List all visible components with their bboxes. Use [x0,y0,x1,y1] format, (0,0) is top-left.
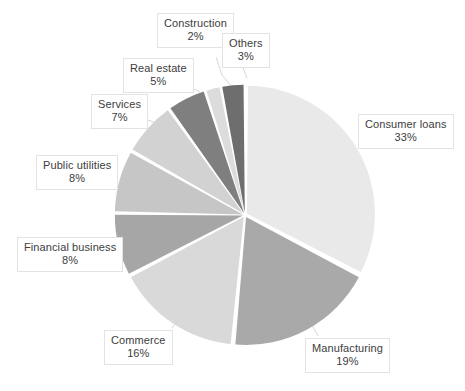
pie-label-others: Others 3% [222,33,270,68]
pie-label-consumer-loans-name: Consumer loans [365,118,447,131]
pie-label-public-utilities-value: 8% [43,172,111,185]
pie-label-financial-business-name: Financial business [24,241,116,254]
pie-label-consumer-loans-value: 33% [365,131,447,144]
pie-label-commerce-value: 16% [111,347,166,360]
pie-label-real-estate: Real estate 5% [123,58,194,93]
pie-label-manufacturing-value: 19% [312,355,383,368]
pie-label-real-estate-name: Real estate [130,62,187,75]
pie-label-services: Services 7% [91,94,148,129]
pie-label-commerce: Commerce 16% [104,330,173,365]
pie-label-construction-value: 2% [164,30,227,43]
pie-label-others-name: Others [229,37,263,50]
leader-line-manufacturing [312,325,318,336]
pie-label-real-estate-value: 5% [130,75,187,88]
pie-label-services-value: 7% [98,111,141,124]
pie-label-manufacturing-name: Manufacturing [312,342,383,355]
pie-label-manufacturing: Manufacturing 19% [305,338,390,373]
pie-label-commerce-name: Commerce [111,334,166,347]
pie-label-others-value: 3% [229,50,263,63]
pie-label-services-name: Services [98,98,141,111]
pie-slices-group [115,85,375,345]
pie-label-public-utilities-name: Public utilities [43,159,111,172]
pie-label-financial-business-value: 8% [24,254,116,267]
pie-label-public-utilities: Public utilities 8% [36,155,118,190]
pie-label-construction-name: Construction [164,17,227,30]
pie-chart: Consumer loans 33% Manufacturing 19% Com… [0,0,465,391]
pie-label-consumer-loans: Consumer loans 33% [358,114,454,149]
pie-label-financial-business: Financial business 8% [17,237,123,272]
